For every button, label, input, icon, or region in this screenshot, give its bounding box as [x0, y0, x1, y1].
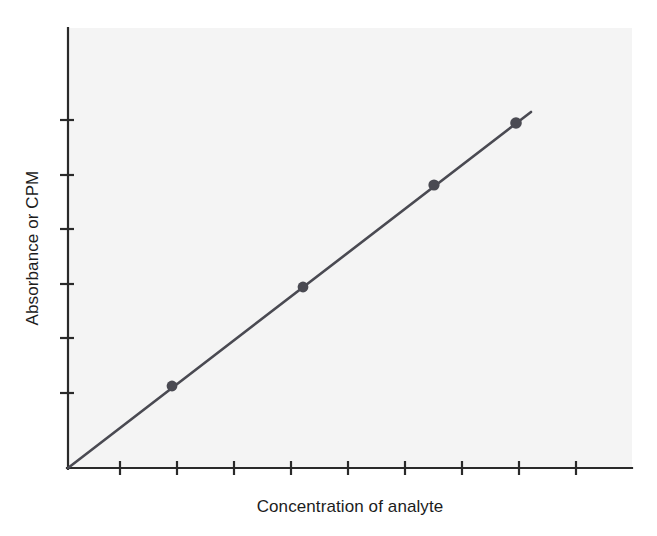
data-point [167, 381, 178, 392]
data-point [298, 282, 309, 293]
figure-container: Absorbance or CPM Concentration of analy… [0, 0, 657, 536]
data-point [510, 117, 522, 129]
x-axis-label: Concentration of analyte [68, 497, 632, 517]
y-axis-label: Absorbance or CPM [23, 138, 43, 358]
data-point [428, 179, 439, 190]
chart-canvas [0, 0, 657, 536]
